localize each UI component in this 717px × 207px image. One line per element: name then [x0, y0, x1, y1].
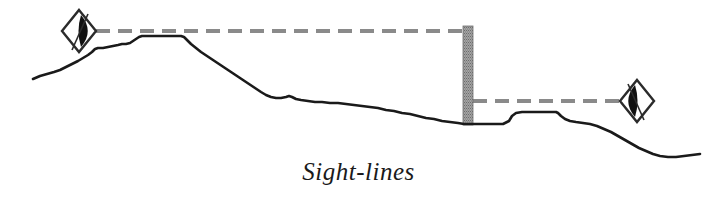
- sightline-group: [96, 31, 627, 101]
- vertical-wall-group: [463, 26, 473, 125]
- right-eye-marker: [620, 80, 654, 122]
- left-eye-marker: [62, 10, 96, 52]
- terrain-group: [33, 36, 700, 157]
- sight-lines-figure: Sight-lines: [0, 0, 717, 207]
- figure-caption: Sight-lines: [0, 158, 717, 186]
- ground-profile-line: [33, 36, 700, 157]
- vertical-wall: [463, 26, 473, 125]
